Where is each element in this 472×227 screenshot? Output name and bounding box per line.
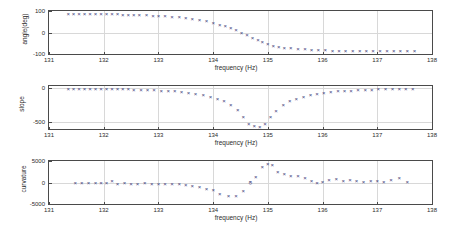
y-axis-tick (49, 183, 52, 184)
data-point-marker: × (343, 88, 347, 94)
data-point-marker: × (310, 178, 314, 184)
x-axis-tick-label: 134 (208, 132, 218, 139)
data-point-marker: × (342, 178, 346, 184)
y-axis-tick (49, 54, 52, 55)
data-point-marker: × (129, 181, 133, 187)
x-axis-label-angle: frequency (Hz) (0, 64, 472, 72)
data-point-marker: × (152, 87, 156, 93)
data-point-marker: × (110, 178, 114, 184)
data-point-marker: × (211, 187, 215, 193)
data-point-marker: × (139, 87, 143, 93)
data-point-marker: × (167, 88, 171, 94)
x-axis-tick (213, 127, 214, 130)
data-point-marker: × (170, 181, 174, 187)
data-point-marker: × (281, 102, 285, 108)
data-point-marker: × (277, 44, 281, 50)
data-point-marker: × (303, 46, 307, 52)
data-point-marker: × (355, 178, 359, 184)
data-point-marker: × (261, 39, 265, 45)
data-point-marker: × (348, 177, 352, 183)
data-point-marker: × (322, 90, 326, 96)
data-point-marker: × (391, 86, 395, 92)
x-axis-tick (213, 52, 214, 55)
data-point-marker: × (296, 46, 300, 52)
data-point-marker: × (234, 27, 238, 33)
data-point-marker: × (170, 14, 174, 20)
data-point-marker: × (198, 17, 202, 23)
x-axis-tick-label: 137 (372, 57, 382, 64)
data-point-marker: × (303, 175, 307, 181)
plot-area-slope: ××××××××××××××××××××××××××××××××××××××××… (48, 85, 433, 130)
x-axis-tick (377, 52, 378, 55)
data-point-marker: × (99, 11, 103, 17)
x-axis-tick-label: 138 (427, 132, 437, 139)
data-point-marker: × (143, 180, 147, 186)
data-point-marker: × (296, 173, 300, 179)
data-point-marker: × (241, 188, 245, 194)
data-point-marker: × (88, 86, 92, 92)
data-point-marker: × (261, 164, 265, 170)
x-axis-tick-label: 133 (153, 57, 163, 64)
data-point-marker: × (370, 87, 374, 93)
data-point-marker: × (121, 86, 125, 92)
data-point-marker: × (404, 86, 408, 92)
data-point-marker: × (159, 88, 163, 94)
data-point-marker: × (252, 123, 256, 129)
x-axis-tick (268, 202, 269, 205)
data-point-marker: × (411, 86, 415, 92)
data-point-marker: × (329, 89, 333, 95)
data-point-marker: × (127, 12, 131, 18)
data-point-marker: × (205, 18, 209, 24)
highlighted-point-marker: ○ (248, 178, 252, 185)
data-point-marker: × (283, 171, 287, 177)
x-axis-tick-label: 136 (318, 132, 328, 139)
x-axis-tick-label: 136 (318, 57, 328, 64)
data-point-marker: × (270, 162, 274, 168)
data-point-marker: × (251, 35, 255, 41)
data-point-marker: × (163, 13, 167, 19)
x-axis-label-curvature: frequency (Hz) (0, 214, 472, 222)
data-point-marker: × (289, 173, 293, 179)
data-point-marker: × (136, 181, 140, 187)
data-point-marker: × (163, 181, 167, 187)
x-axis-tick (104, 202, 105, 205)
data-point-marker: × (334, 176, 338, 182)
x-axis-tick (323, 202, 324, 205)
data-point-marker: × (389, 177, 393, 183)
subplot-curvature: ××××××××××××××××××××××××××××××××××××××××… (0, 152, 472, 227)
x-axis-tick-label: 134 (208, 57, 218, 64)
data-point-marker: × (72, 86, 76, 92)
data-point-marker: × (191, 183, 195, 189)
data-point-marker: × (371, 48, 375, 54)
data-point-marker: × (218, 22, 222, 28)
data-point-marker: × (66, 11, 70, 17)
data-point-marker: × (295, 96, 299, 102)
data-point-marker: × (198, 184, 202, 190)
x-axis-tick (377, 127, 378, 130)
x-axis-tick (158, 52, 159, 55)
data-point-marker: × (211, 20, 215, 26)
data-point-marker: × (310, 47, 314, 53)
x-axis-tick-label: 135 (263, 207, 273, 214)
data-point-marker: × (222, 98, 226, 104)
data-point-marker: × (132, 12, 136, 18)
plot-area-curvature: ××××××××××××××××××××××××××××××××××××××××… (48, 160, 433, 205)
data-point-marker: × (77, 86, 81, 92)
x-axis-tick (104, 127, 105, 130)
data-point-marker: × (66, 86, 70, 92)
data-point-marker: × (116, 86, 120, 92)
data-point-marker: × (327, 177, 331, 183)
data-point-marker: × (145, 12, 149, 18)
data-point-marker: × (138, 12, 142, 18)
data-point-marker: × (240, 30, 244, 36)
x-axis-tick (432, 52, 433, 55)
x-axis-tick-label: 137 (372, 207, 382, 214)
data-point-marker: × (88, 11, 92, 17)
data-point-marker: × (229, 102, 233, 108)
data-point-marker: × (227, 193, 231, 199)
data-point-marker: × (105, 11, 109, 17)
data-point-marker: × (337, 48, 341, 54)
data-point-marker: × (269, 114, 273, 120)
data-point-marker: × (254, 174, 258, 180)
data-point-marker: × (127, 86, 131, 92)
